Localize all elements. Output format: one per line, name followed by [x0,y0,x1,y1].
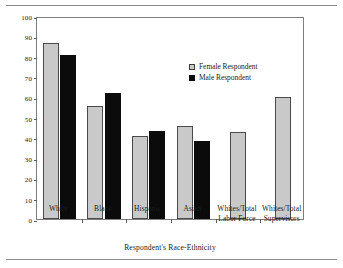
x-tick-label-line: Whites/Total [259,204,304,214]
bottom-divider-rule [6,259,337,260]
y-tick-label-70: 70 [25,75,37,83]
x-tick-label-5: Whites/TotalSupervisors [259,204,304,223]
legend-swatch-male-icon [189,75,195,81]
x-tick-mark-3 [171,219,172,223]
top-divider-rule [6,5,337,6]
y-tick-label-50: 50 [25,116,37,124]
x-tick-label-line: Whites/Total [215,204,260,214]
bar-male-0 [60,55,76,219]
x-tick-mark-2 [126,219,127,223]
x-tick-label-line: Black [81,204,126,214]
y-tick-label-100: 100 [21,14,37,22]
y-tick-label-80: 80 [25,55,37,63]
bar-male-1 [105,93,121,219]
x-tick-label-3: Asian [170,204,215,214]
y-tick-label-90: 90 [25,34,37,42]
plot-area: Percentage 0102030405060708090100 Female… [36,17,304,220]
y-tick-label-0: 0 [28,217,37,225]
chart-legend: Female RespondentMale Respondent [189,62,258,83]
x-tick-label-1: Black [81,204,126,214]
y-tick-label-20: 20 [25,176,37,184]
legend-item-label: Female Respondent [199,62,258,73]
x-axis-title: Respondent's Race-Ethnicity [36,243,304,252]
bar-female-0 [43,43,59,219]
y-tick-label-60: 60 [25,95,37,103]
x-tick-label-line: Hispanic [125,204,170,214]
figure-panel: Percentage 0102030405060708090100 Female… [0,0,343,268]
x-tick-label-line: Supervisors [259,214,304,224]
legend-item-female: Female Respondent [189,62,258,73]
y-tick-label-30: 30 [25,156,37,164]
x-tick-label-4: Whites/TotalLabor Force [215,204,260,223]
x-tick-label-line: White [36,204,81,214]
x-tick-label-2: Hispanic [125,204,170,214]
bar-female-5 [275,97,291,219]
x-tick-label-line: Labor Force [215,214,260,224]
bar-female-1 [87,106,103,219]
x-tick-mark-1 [82,219,83,223]
legend-item-male: Male Respondent [189,73,258,84]
x-tick-label-line: Asian [170,204,215,214]
y-tick-label-40: 40 [25,136,37,144]
legend-item-label: Male Respondent [199,73,251,84]
x-tick-label-0: White [36,204,81,214]
legend-swatch-female-icon [189,64,195,70]
